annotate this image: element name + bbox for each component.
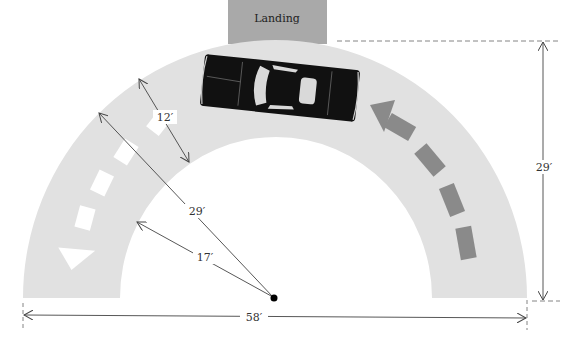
center-point: [271, 295, 278, 302]
circular-driveway-diagram: Landing 12′ 29′: [0, 0, 579, 345]
outer-radius-label: 29′: [189, 205, 206, 218]
lane-width-label: 12′: [157, 111, 174, 124]
total-width-dimension: 58′: [23, 300, 527, 330]
inner-radius-label: 17′: [197, 251, 214, 264]
inner-radius-dimension: 17′: [137, 222, 273, 297]
landing: Landing: [228, 0, 327, 44]
total-height-label: 29′: [536, 161, 553, 174]
landing-label: Landing: [254, 12, 300, 25]
total-width-label: 58′: [246, 311, 263, 324]
